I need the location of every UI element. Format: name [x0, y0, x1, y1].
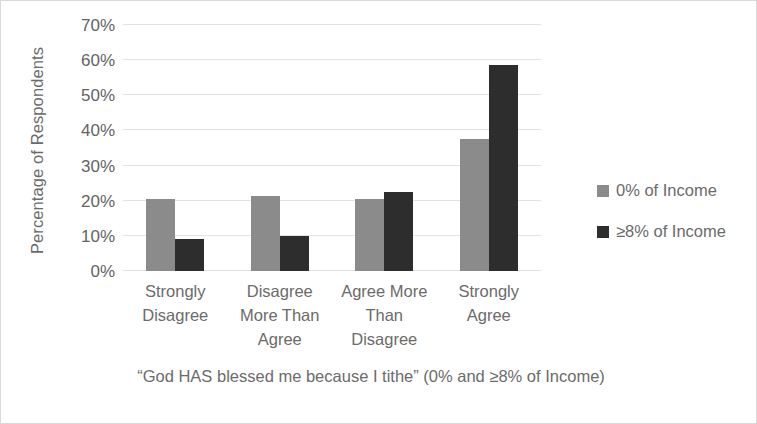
category-label-line: Disagree [319, 327, 449, 351]
bar [175, 239, 204, 271]
x-axis-category-label: StronglyAgree [424, 279, 554, 327]
category-label-line: Agree [424, 303, 554, 327]
plot-area [123, 25, 541, 271]
bar-group [332, 25, 437, 271]
bar [146, 199, 175, 271]
y-axis-tick-label: 20% [53, 192, 115, 209]
y-axis-tick-label: 10% [53, 227, 115, 244]
x-axis-title: “God HAS blessed me because I tithe” (0%… [61, 367, 681, 386]
y-axis-tick-label: 40% [53, 122, 115, 139]
legend-item: 0% of Income [597, 181, 726, 200]
x-axis-category-labels: StronglyDisagreeDisagreeMore ThanAgreeAg… [123, 279, 541, 363]
y-axis-tick-label: 60% [53, 52, 115, 69]
bar [251, 196, 280, 271]
y-axis-tick-label: 30% [53, 157, 115, 174]
bar-group [228, 25, 333, 271]
legend-swatch-icon [597, 185, 609, 197]
y-axis-title: Percentage of Respondents [28, 21, 47, 281]
chart-figure: Percentage of Respondents 0%10%20%30%40%… [0, 0, 757, 424]
y-axis-tick-label: 70% [53, 17, 115, 34]
legend-label: ≥8% of Income [616, 222, 726, 241]
y-axis-tick-label: 0% [53, 263, 115, 280]
legend-swatch-icon [597, 226, 609, 238]
bar [384, 192, 413, 271]
bars-layer [123, 25, 541, 271]
bar [355, 199, 384, 271]
bar [280, 236, 309, 271]
legend-item: ≥8% of Income [597, 222, 726, 241]
chart-legend: 0% of Income≥8% of Income [597, 181, 726, 263]
y-axis-tick-label: 50% [53, 87, 115, 104]
bar [460, 139, 489, 271]
bar-group [123, 25, 228, 271]
category-label-line: Strongly [424, 279, 554, 303]
bar [489, 65, 518, 271]
bar-group [437, 25, 542, 271]
legend-label: 0% of Income [616, 181, 717, 200]
